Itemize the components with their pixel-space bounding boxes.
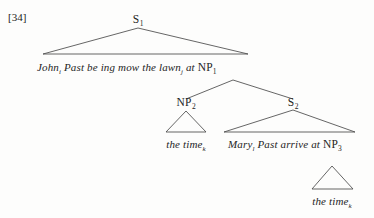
branch-np1-to-s2 [233,80,293,99]
terminal-the-time-1: the time [166,138,202,150]
node-np3-label: NP [323,138,338,150]
terminal-np2-expansion: the timek [166,139,206,150]
terminal-word-john: John [37,61,59,73]
triangle-s2 [224,110,355,132]
terminal-s2-expansion: Maryl Past arrive at NP3 [228,139,342,151]
terminal-subscript-k-1: k [203,145,206,153]
terminal-matrix-clause: Johni Past be ing mow the lawnj at NP1 [37,62,217,74]
terminal-subscript-k-2: k [349,202,352,210]
terminal-the-time-2: the time [312,195,348,207]
terminal-np3-expansion: the timek [312,196,352,207]
terminal-subscript-l: l [252,145,254,153]
node-s2-label: S [288,96,295,108]
triangle-s1 [43,28,248,54]
terminal-word-mary: Mary [228,138,252,150]
terminal-subscript-i: i [59,68,61,76]
node-s1-label: S [133,13,140,25]
node-s1-subscript: 1 [140,19,144,28]
node-np1-label: NP [198,61,213,73]
node-np3: NP3 [323,138,342,150]
node-np3-subscript: 3 [338,144,342,153]
node-s2: S2 [288,97,299,109]
terminal-matrix-tail: at [183,61,198,73]
node-s1: S1 [133,14,144,26]
terminal-matrix-middle: Past be ing mow the lawn [61,61,181,73]
node-np2: NP2 [176,97,195,109]
node-np1-subscript: 1 [213,67,217,76]
triangle-np3 [312,166,353,189]
example-number: [34] [8,12,26,23]
triangle-np2 [166,111,206,132]
node-np1: NP1 [198,61,217,73]
syntax-tree-figure: [34] S1 Johni Past be ing mow the lawnj … [0,0,374,218]
tree-lines-svg [0,0,374,218]
node-np2-subscript: 2 [192,102,196,111]
node-np2-label: NP [176,96,191,108]
node-s2-subscript: 2 [295,102,299,111]
terminal-subscript-j: j [181,68,183,76]
terminal-s2-middle: Past arrive at [255,138,323,150]
